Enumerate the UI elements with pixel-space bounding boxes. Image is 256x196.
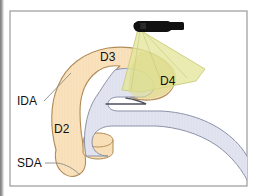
label-sda: SDA [17, 156, 42, 170]
label-d2: D2 [54, 122, 70, 136]
duodenum-diagram-svg: D3 D4 D2 IDA SDA [0, 0, 256, 196]
label-ida: IDA [17, 94, 37, 108]
label-d3: D3 [100, 50, 116, 64]
label-d4: D4 [160, 74, 176, 88]
figure-root: D3 D4 D2 IDA SDA [0, 0, 256, 196]
